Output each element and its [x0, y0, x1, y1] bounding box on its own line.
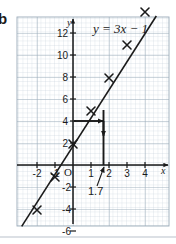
x-tick-label: 1	[88, 168, 94, 179]
y-tick-label: 2	[62, 138, 68, 149]
x-tick-label: -2	[33, 168, 42, 179]
x-tick-label: -1	[51, 168, 60, 179]
x-tick-label: 3	[124, 168, 130, 179]
y-tick-label: 6	[62, 94, 68, 105]
y-tick-label: 10	[57, 50, 69, 61]
y-tick-label: 8	[62, 72, 68, 83]
graph-figure: b	[0, 0, 176, 244]
x-axis-label: x	[160, 165, 166, 176]
equation-label: y = 3x − 1	[91, 21, 148, 36]
x-tick-label: 2	[106, 168, 112, 179]
part-label: b	[0, 10, 7, 27]
x-tick-label: 4	[142, 168, 148, 179]
y-tick-labels-lower: -6	[62, 182, 71, 193]
y-tick-label: -4	[62, 204, 71, 215]
annotation-value-label: 1.7	[88, 185, 103, 197]
coordinate-graph: y = 3x − 1 y x O 12 10 8 6 4 2 -2 -4 -6 …	[0, 0, 176, 244]
y-tick-label: 4	[62, 116, 68, 127]
y-tick-label: 12	[57, 28, 69, 39]
y-axis-label: y	[66, 17, 72, 28]
origin-label: O	[64, 166, 72, 178]
